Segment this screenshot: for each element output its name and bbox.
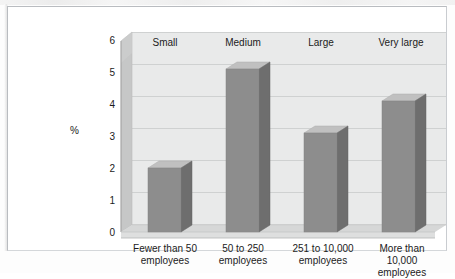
scan-noise-band (0, 0, 455, 5)
group-label-small: Small (128, 37, 202, 49)
ytick-0: 0 (99, 228, 115, 238)
xtick-medium-line2: employees (202, 255, 284, 267)
xtick-small-line1: Fewer than 50 (121, 243, 209, 255)
xtick-very-large-line2: 10,000 (360, 255, 444, 267)
xtick-label-large: 251 to 10,000 employees (277, 243, 369, 267)
group-label-medium: Medium (206, 37, 280, 49)
xtick-very-large-line3: employees (360, 267, 444, 279)
xtick-label-small: Fewer than 50 employees (121, 243, 209, 267)
bar-chart: 6 5 4 3 2 1 0 % Small Medium Large Very … (15, 13, 455, 258)
xtick-very-large-line1: More than (360, 243, 444, 255)
xtick-large-line2: employees (277, 255, 369, 267)
ytick-3: 3 (99, 132, 115, 142)
bar-very-large (382, 94, 426, 232)
xtick-small-line2: employees (121, 255, 209, 267)
xtick-medium-line1: 50 to 250 (202, 243, 284, 255)
xtick-large-line1: 251 to 10,000 (277, 243, 369, 255)
bars-layer (15, 13, 455, 258)
ytick-2: 2 (99, 164, 115, 174)
xtick-label-very-large: More than 10,000 employees (360, 243, 444, 279)
ytick-1: 1 (99, 196, 115, 206)
ytick-5: 5 (99, 68, 115, 78)
bar-small (148, 161, 192, 232)
y-axis-label: % (70, 126, 79, 136)
group-label-very-large: Very large (362, 37, 440, 49)
bar-large (304, 126, 348, 232)
xtick-label-medium: 50 to 250 employees (202, 243, 284, 267)
bar-medium (226, 62, 270, 232)
group-label-large: Large (284, 37, 358, 49)
ytick-4: 4 (99, 100, 115, 110)
figure-frame: 6 5 4 3 2 1 0 % Small Medium Large Very … (7, 6, 447, 251)
ytick-6: 6 (99, 36, 115, 46)
